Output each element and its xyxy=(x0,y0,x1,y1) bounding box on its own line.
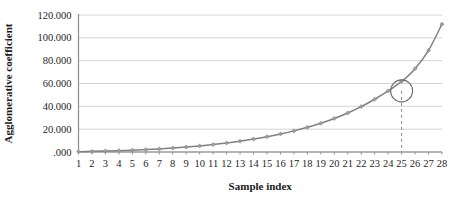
x-axis-tick-label: 12 xyxy=(221,158,232,169)
x-axis-tick-label: 19 xyxy=(316,158,327,169)
x-axis-tick-labels: 1234567891011121314151617181920212223242… xyxy=(76,158,447,169)
x-axis-tick-label: 17 xyxy=(289,158,300,169)
x-axis-tick-label: 23 xyxy=(369,158,380,169)
x-axis-tick-label: 10 xyxy=(194,158,205,169)
x-axis-tick-label: 21 xyxy=(343,158,354,169)
x-axis-tick-label: 16 xyxy=(275,158,286,169)
x-axis-tick-label: 11 xyxy=(208,158,218,169)
x-axis-tick-label: 15 xyxy=(262,158,273,169)
x-axis-tick-label: 22 xyxy=(356,158,367,169)
x-axis-tick-label: 24 xyxy=(383,158,394,169)
x-axis-tick-label: 28 xyxy=(437,158,448,169)
x-axis-tick-label: 2 xyxy=(89,158,94,169)
x-axis-tick-label: 13 xyxy=(235,158,246,169)
x-axis-tick-label: 18 xyxy=(302,158,313,169)
x-axis-tick-label: 25 xyxy=(396,158,407,169)
x-axis-tick-label: 3 xyxy=(103,158,108,169)
y-axis-tick-label: 20.000 xyxy=(43,124,72,135)
y-axis-title: Agglomerative coefficient xyxy=(2,23,14,143)
agglomerative-coefficient-line-chart: .00020.00040.00060.00080.000100.000120.0… xyxy=(0,0,450,204)
x-axis-tick-label: 27 xyxy=(423,158,434,169)
x-axis-tick-label: 7 xyxy=(157,158,162,169)
x-axis-tick-label: 20 xyxy=(329,158,340,169)
y-axis-tick-label: .000 xyxy=(53,147,71,158)
x-axis-tick-label: 4 xyxy=(116,158,122,169)
x-axis-tick-label: 6 xyxy=(143,158,148,169)
x-axis-tick-label: 5 xyxy=(130,158,135,169)
x-axis-tick-label: 14 xyxy=(248,158,259,169)
y-axis-tick-label: 60.000 xyxy=(43,78,72,89)
x-axis-title: Sample index xyxy=(229,180,293,192)
y-axis-tick-label: 100.000 xyxy=(37,32,71,43)
y-axis-tick-label: 40.000 xyxy=(43,101,72,112)
y-axis-tick-label: 120.000 xyxy=(37,10,71,21)
x-axis-tick-label: 26 xyxy=(410,158,421,169)
y-axis-tick-label: 80.000 xyxy=(43,55,72,66)
x-axis-tick-label: 1 xyxy=(76,158,81,169)
x-axis-tick-label: 8 xyxy=(170,158,175,169)
x-axis-tick-label: 9 xyxy=(184,158,189,169)
chart-container: .00020.00040.00060.00080.000100.000120.0… xyxy=(0,0,450,204)
